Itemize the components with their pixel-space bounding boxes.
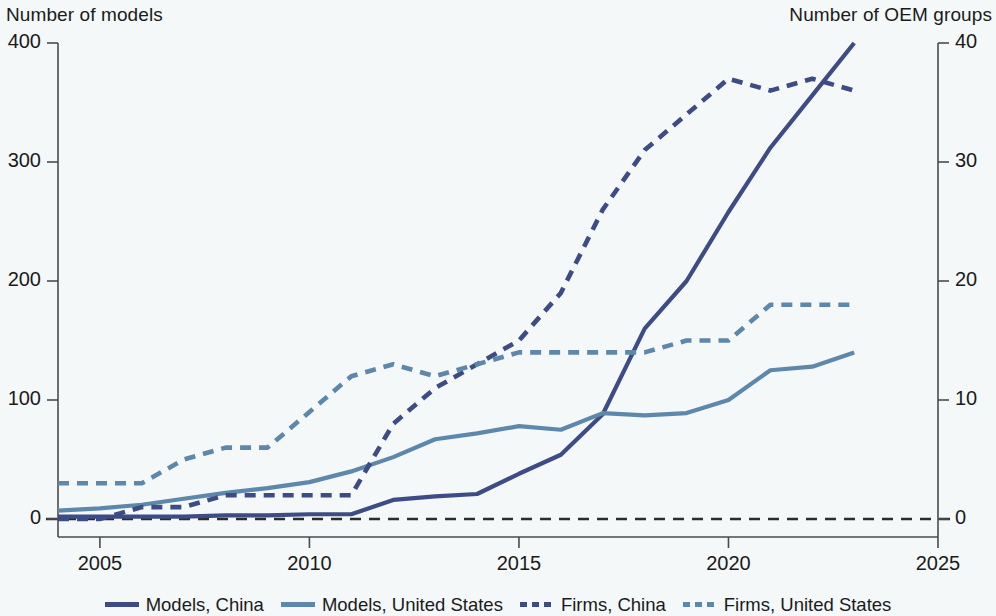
legend-item[interactable]: Firms, United States [683, 596, 892, 615]
legend-item[interactable]: Models, China [105, 596, 264, 615]
x-axis-tick-label: 2015 [484, 552, 554, 575]
legend-item[interactable]: Firms, China [520, 596, 666, 615]
chart-legend: Models, ChinaModels, United StatesFirms,… [0, 596, 996, 615]
chart-figure: Number of models Number of OEM groups 01… [0, 0, 996, 616]
x-axis-tick-label: 2025 [903, 552, 973, 575]
legend-swatch-solid-icon [105, 602, 139, 607]
left-axis-tick-label: 100 [0, 387, 41, 410]
right-axis-tick-label: 10 [955, 387, 996, 410]
x-axis-tick-label: 2010 [274, 552, 344, 575]
data-series-group [58, 43, 854, 519]
legend-swatch-dashed-icon [520, 602, 554, 607]
right-axis-tick-label: 0 [955, 506, 996, 529]
axes [46, 43, 950, 537]
legend-swatch-solid-icon [281, 602, 315, 607]
right-axis-tick-label: 40 [955, 30, 996, 53]
right-axis-tick-label: 20 [955, 268, 996, 291]
left-axis-tick-label: 200 [0, 268, 41, 291]
legend-label: Models, China [146, 596, 264, 615]
left-axis-tick-label: 0 [0, 506, 41, 529]
series-line-firms-china [58, 79, 854, 519]
series-line-models-china [58, 43, 854, 517]
legend-label: Firms, China [561, 596, 666, 615]
legend-swatch-dashed-icon [683, 602, 717, 607]
plot-area [0, 0, 996, 616]
right-axis-tick-label: 30 [955, 149, 996, 172]
right-axis-ticks [938, 43, 949, 519]
legend-label: Models, United States [322, 596, 503, 615]
legend-label: Firms, United States [724, 596, 892, 615]
legend-item[interactable]: Models, United States [281, 596, 503, 615]
left-axis-ticks [47, 43, 58, 519]
x-axis-tick-label: 2020 [693, 552, 763, 575]
x-axis-tick-label: 2005 [65, 552, 135, 575]
left-axis-tick-label: 300 [0, 149, 41, 172]
left-axis-tick-label: 400 [0, 30, 41, 53]
x-axis-ticks [100, 537, 938, 548]
